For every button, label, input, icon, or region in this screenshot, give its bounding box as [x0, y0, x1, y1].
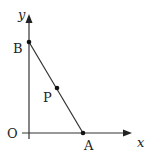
x-axis-label: x	[137, 135, 145, 150]
y-axis-label: y	[17, 7, 26, 22]
point-b-label: B	[13, 41, 23, 56]
point-p-dot	[55, 86, 60, 91]
point-a-dot	[81, 131, 86, 136]
y-axis-arrowhead-icon	[26, 14, 33, 23]
coordinate-diagram: y x O B A P	[0, 0, 153, 158]
point-b-dot	[27, 40, 32, 45]
origin-label: O	[7, 126, 18, 141]
point-a-label: A	[83, 138, 94, 153]
x-axis-arrowhead-icon	[123, 130, 132, 137]
point-p-label: P	[43, 90, 52, 105]
